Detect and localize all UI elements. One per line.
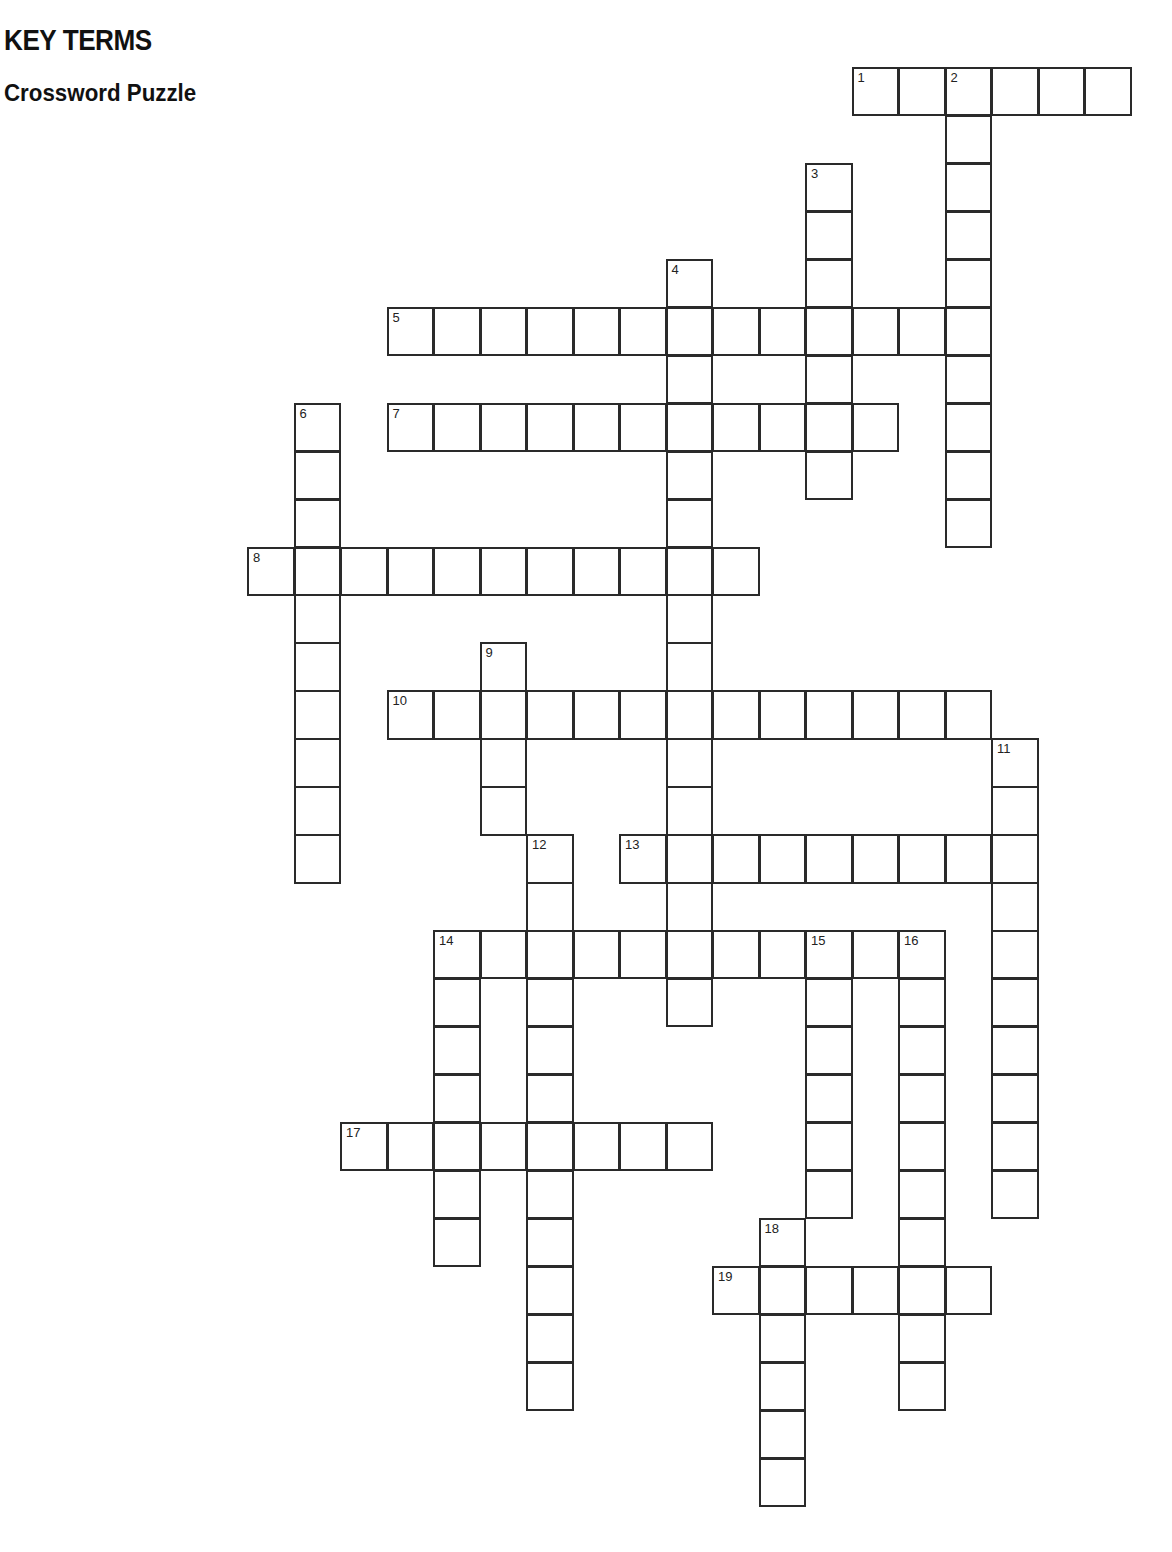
crossword-cell[interactable] bbox=[526, 547, 574, 596]
crossword-cell[interactable] bbox=[991, 1026, 1039, 1075]
crossword-cell[interactable] bbox=[898, 978, 946, 1027]
crossword-cell[interactable] bbox=[294, 834, 342, 883]
crossword-cell[interactable] bbox=[991, 1122, 1039, 1171]
crossword-cell[interactable] bbox=[526, 978, 574, 1027]
crossword-cell[interactable] bbox=[480, 930, 528, 979]
crossword-cell[interactable] bbox=[991, 1170, 1039, 1219]
crossword-cell[interactable] bbox=[526, 1170, 574, 1219]
crossword-cell[interactable] bbox=[945, 499, 993, 548]
crossword-cell[interactable] bbox=[805, 1170, 853, 1219]
crossword-cell[interactable] bbox=[526, 307, 574, 356]
crossword-cell[interactable] bbox=[666, 786, 714, 835]
crossword-cell[interactable] bbox=[619, 690, 667, 739]
crossword-cell[interactable]: 4 bbox=[666, 259, 714, 308]
crossword-cell[interactable] bbox=[991, 67, 1039, 116]
crossword-cell[interactable] bbox=[852, 307, 900, 356]
crossword-cell[interactable] bbox=[480, 307, 528, 356]
crossword-cell[interactable] bbox=[480, 1122, 528, 1171]
crossword-cell[interactable] bbox=[712, 690, 760, 739]
crossword-cell[interactable]: 16 bbox=[898, 930, 946, 979]
crossword-cell[interactable] bbox=[387, 547, 435, 596]
crossword-cell[interactable]: 13 bbox=[619, 834, 667, 883]
crossword-cell[interactable] bbox=[945, 403, 993, 452]
crossword-cell[interactable] bbox=[340, 547, 388, 596]
crossword-cell[interactable] bbox=[573, 1122, 621, 1171]
crossword-cell[interactable] bbox=[294, 738, 342, 787]
crossword-cell[interactable] bbox=[526, 1362, 574, 1411]
crossword-cell[interactable] bbox=[666, 499, 714, 548]
crossword-cell[interactable] bbox=[898, 1122, 946, 1171]
crossword-cell[interactable] bbox=[898, 307, 946, 356]
crossword-cell[interactable] bbox=[573, 690, 621, 739]
crossword-cell[interactable] bbox=[387, 1122, 435, 1171]
crossword-cell[interactable] bbox=[433, 1122, 481, 1171]
crossword-cell[interactable] bbox=[666, 355, 714, 404]
crossword-cell[interactable] bbox=[805, 978, 853, 1027]
crossword-cell[interactable] bbox=[991, 978, 1039, 1027]
crossword-cell[interactable] bbox=[526, 1218, 574, 1267]
crossword-cell[interactable] bbox=[433, 1218, 481, 1267]
crossword-cell[interactable]: 5 bbox=[387, 307, 435, 356]
crossword-cell[interactable] bbox=[945, 1266, 993, 1315]
crossword-cell[interactable] bbox=[666, 1122, 714, 1171]
crossword-cell[interactable] bbox=[526, 882, 574, 931]
crossword-cell[interactable] bbox=[433, 1074, 481, 1123]
crossword-cell[interactable] bbox=[573, 547, 621, 596]
crossword-cell[interactable]: 3 bbox=[805, 163, 853, 212]
crossword-cell[interactable] bbox=[945, 115, 993, 164]
crossword-cell[interactable] bbox=[759, 1458, 807, 1507]
crossword-cell[interactable] bbox=[526, 1026, 574, 1075]
crossword-cell[interactable] bbox=[666, 978, 714, 1027]
crossword-cell[interactable]: 10 bbox=[387, 690, 435, 739]
crossword-cell[interactable] bbox=[433, 978, 481, 1027]
crossword-cell[interactable]: 1 bbox=[852, 67, 900, 116]
crossword-cell[interactable] bbox=[945, 690, 993, 739]
crossword-cell[interactable]: 15 bbox=[805, 930, 853, 979]
crossword-cell[interactable] bbox=[759, 307, 807, 356]
crossword-cell[interactable] bbox=[852, 690, 900, 739]
crossword-cell[interactable] bbox=[898, 1314, 946, 1363]
crossword-cell[interactable] bbox=[712, 403, 760, 452]
crossword-cell[interactable] bbox=[945, 834, 993, 883]
crossword-cell[interactable] bbox=[619, 547, 667, 596]
crossword-cell[interactable] bbox=[526, 1266, 574, 1315]
crossword-cell[interactable] bbox=[666, 307, 714, 356]
crossword-cell[interactable] bbox=[759, 1314, 807, 1363]
crossword-cell[interactable] bbox=[945, 163, 993, 212]
crossword-cell[interactable] bbox=[852, 403, 900, 452]
crossword-cell[interactable] bbox=[759, 930, 807, 979]
crossword-cell[interactable] bbox=[805, 1026, 853, 1075]
crossword-cell[interactable] bbox=[294, 786, 342, 835]
crossword-cell[interactable] bbox=[666, 642, 714, 691]
crossword-cell[interactable] bbox=[852, 1266, 900, 1315]
crossword-cell[interactable] bbox=[991, 1074, 1039, 1123]
crossword-cell[interactable] bbox=[433, 307, 481, 356]
crossword-cell[interactable] bbox=[666, 594, 714, 643]
crossword-cell[interactable] bbox=[945, 211, 993, 260]
crossword-cell[interactable]: 8 bbox=[247, 547, 295, 596]
crossword-cell[interactable] bbox=[666, 547, 714, 596]
crossword-cell[interactable] bbox=[898, 690, 946, 739]
crossword-cell[interactable] bbox=[898, 1026, 946, 1075]
crossword-cell[interactable] bbox=[526, 690, 574, 739]
crossword-cell[interactable] bbox=[480, 403, 528, 452]
crossword-cell[interactable] bbox=[294, 594, 342, 643]
crossword-cell[interactable]: 11 bbox=[991, 738, 1039, 787]
crossword-cell[interactable] bbox=[898, 1074, 946, 1123]
crossword-cell[interactable] bbox=[433, 1170, 481, 1219]
crossword-cell[interactable] bbox=[805, 355, 853, 404]
crossword-cell[interactable]: 7 bbox=[387, 403, 435, 452]
crossword-cell[interactable]: 18 bbox=[759, 1218, 807, 1267]
crossword-cell[interactable] bbox=[805, 690, 853, 739]
crossword-cell[interactable] bbox=[898, 834, 946, 883]
crossword-cell[interactable] bbox=[294, 451, 342, 500]
crossword-cell[interactable] bbox=[852, 930, 900, 979]
crossword-cell[interactable] bbox=[666, 690, 714, 739]
crossword-cell[interactable] bbox=[945, 355, 993, 404]
crossword-cell[interactable] bbox=[852, 834, 900, 883]
crossword-cell[interactable] bbox=[759, 1266, 807, 1315]
crossword-cell[interactable] bbox=[805, 403, 853, 452]
crossword-cell[interactable] bbox=[759, 1362, 807, 1411]
crossword-cell[interactable] bbox=[712, 547, 760, 596]
crossword-cell[interactable] bbox=[666, 451, 714, 500]
